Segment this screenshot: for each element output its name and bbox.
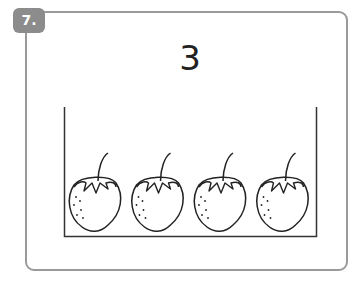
strawberry-tray xyxy=(0,0,353,281)
strawberry-icon xyxy=(194,153,245,231)
strawberry-icon xyxy=(257,153,308,231)
strawberry-icon xyxy=(132,153,183,231)
strawberry-icon xyxy=(69,153,120,231)
